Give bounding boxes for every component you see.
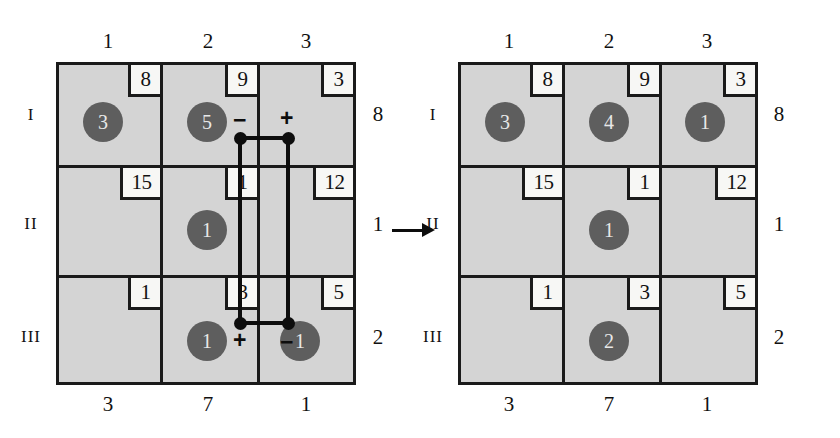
cell-corner-value: 3 <box>627 278 659 310</box>
cell-I-3[interactable]: 3 1 <box>662 65 755 168</box>
row-label-right-II: 1 <box>363 214 393 235</box>
cell-corner-value: 15 <box>522 168 562 200</box>
col-label-top-3: 3 <box>281 31 331 52</box>
grid-before: 1 2 3 3 7 1 I II III 8 1 2 8 3 9 5 3 <box>0 0 400 438</box>
cell-III-1[interactable]: 1 <box>59 278 163 382</box>
cell-III-2[interactable]: 3 1 <box>163 278 260 382</box>
cell-corner-value: 15 <box>120 168 160 200</box>
col-label-bottom-2: 7 <box>584 394 634 415</box>
cell-token[interactable]: 1 <box>187 210 227 250</box>
col-label-bottom-2: 7 <box>183 394 233 415</box>
cell-II-2[interactable]: 1 1 <box>163 168 260 278</box>
row-label-right-III: 2 <box>363 327 393 348</box>
row-label-left-II: II <box>16 215 46 232</box>
col-label-bottom-3: 1 <box>281 394 331 415</box>
col-label-top-3: 3 <box>682 31 732 52</box>
col-label-bottom-1: 3 <box>484 394 534 415</box>
cell-corner-value: 3 <box>321 65 353 97</box>
row-label-right-I: 8 <box>764 104 794 125</box>
cell-corner-value: 1 <box>128 278 160 310</box>
cell-corner-value: 9 <box>225 65 257 97</box>
row-label-right-III: 2 <box>764 327 794 348</box>
cell-III-1[interactable]: 1 <box>461 278 565 382</box>
col-label-top-1: 1 <box>83 31 133 52</box>
row-label-left-III: III <box>418 328 448 345</box>
row-label-left-II: II <box>418 215 448 232</box>
cell-token[interactable]: 1 <box>280 321 320 361</box>
grid-after: 1 2 3 3 7 1 I II III 8 1 2 8 3 9 4 3 <box>400 0 840 438</box>
col-label-bottom-1: 3 <box>83 394 133 415</box>
figure-canvas: 1 2 3 3 7 1 I II III 8 1 2 8 3 9 5 3 <box>0 0 840 438</box>
cell-I-2[interactable]: 9 4 <box>565 65 662 168</box>
cell-II-1[interactable]: 15 <box>59 168 163 278</box>
row-label-right-I: 8 <box>363 104 393 125</box>
cell-corner-value: 8 <box>530 65 562 97</box>
col-label-top-2: 2 <box>584 31 634 52</box>
grid-body-before: 8 3 9 5 3 15 1 1 12 1 <box>56 62 356 385</box>
cell-token[interactable]: 3 <box>485 102 525 142</box>
cell-corner-value: 1 <box>627 168 659 200</box>
grid-body-after: 8 3 9 4 3 1 15 1 1 12 <box>458 62 758 385</box>
cell-corner-value: 1 <box>530 278 562 310</box>
row-label-left-I: I <box>418 106 448 123</box>
cell-II-1[interactable]: 15 <box>461 168 565 278</box>
cell-corner-value: 1 <box>225 168 257 200</box>
col-label-bottom-3: 1 <box>682 394 732 415</box>
cell-I-1[interactable]: 8 3 <box>461 65 565 168</box>
row-label-left-I: I <box>16 106 46 123</box>
row-label-left-III: III <box>16 328 46 345</box>
cell-token[interactable]: 1 <box>187 321 227 361</box>
cell-III-3[interactable]: 5 1 <box>260 278 353 382</box>
cell-corner-value: 5 <box>723 278 755 310</box>
cell-corner-value: 3 <box>225 278 257 310</box>
cell-token[interactable]: 1 <box>589 210 629 250</box>
cell-corner-value: 3 <box>723 65 755 97</box>
cell-corner-value: 9 <box>627 65 659 97</box>
col-label-top-1: 1 <box>484 31 534 52</box>
cell-corner-value: 12 <box>715 168 755 200</box>
cell-token[interactable]: 2 <box>589 321 629 361</box>
cell-corner-value: 12 <box>313 168 353 200</box>
cell-token[interactable]: 4 <box>589 102 629 142</box>
cell-II-3[interactable]: 12 <box>260 168 353 278</box>
cell-corner-value: 5 <box>321 278 353 310</box>
cell-token[interactable]: 5 <box>187 102 227 142</box>
cell-token[interactable]: 1 <box>685 102 725 142</box>
row-label-right-II: 1 <box>764 214 794 235</box>
cell-token[interactable]: 3 <box>83 102 123 142</box>
cell-II-3[interactable]: 12 <box>662 168 755 278</box>
cell-corner-value: 8 <box>128 65 160 97</box>
cell-III-2[interactable]: 3 2 <box>565 278 662 382</box>
cell-I-1[interactable]: 8 3 <box>59 65 163 168</box>
cell-III-3[interactable]: 5 <box>662 278 755 382</box>
col-label-top-2: 2 <box>183 31 233 52</box>
cell-I-3[interactable]: 3 <box>260 65 353 168</box>
cell-I-2[interactable]: 9 5 <box>163 65 260 168</box>
cell-II-2[interactable]: 1 1 <box>565 168 662 278</box>
